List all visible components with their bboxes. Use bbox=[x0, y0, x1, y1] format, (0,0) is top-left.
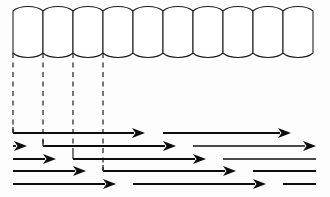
arrow-row-1-segment-2 bbox=[163, 128, 291, 138]
arrow-row-3 bbox=[13, 153, 316, 164]
arrow-row-1 bbox=[13, 127, 291, 138]
arrow-row-1-segment-1 bbox=[13, 127, 145, 138]
arrow-row-4-segment-2 bbox=[103, 165, 236, 176]
figure-canvas bbox=[0, 0, 330, 197]
figure-svg bbox=[0, 0, 330, 197]
cylinder-cell-8 bbox=[223, 7, 253, 58]
dashed-projection-lines bbox=[13, 53, 103, 170]
arrow-row-4 bbox=[13, 165, 316, 176]
arrow-row-5-segment-1 bbox=[13, 179, 116, 189]
cylinder-cell-9 bbox=[253, 7, 283, 58]
arrow-row-2-segment-3 bbox=[193, 141, 316, 151]
arrow-row-3-segment-1 bbox=[13, 154, 56, 164]
arrow-row-4-segment-1 bbox=[13, 166, 86, 176]
cylinder-cell-6 bbox=[163, 7, 193, 58]
arrow-row-5-segment-2 bbox=[133, 179, 266, 189]
cylinder-cell-4 bbox=[103, 7, 133, 58]
arrow-row-2-segment-2 bbox=[43, 140, 176, 151]
cylinder-cell-7 bbox=[193, 7, 223, 58]
arrow-row-3-segment-2 bbox=[73, 153, 206, 164]
cylinder-cell-2 bbox=[43, 7, 73, 58]
cylinder-cell-5 bbox=[133, 7, 163, 58]
displacement-arrow-rows bbox=[13, 127, 316, 189]
cylinder-cell-3 bbox=[73, 7, 103, 58]
arrow-row-2 bbox=[13, 140, 316, 151]
cylinder-cell-row bbox=[13, 7, 313, 58]
arrow-row-2-segment-1 bbox=[13, 141, 27, 151]
cylinder-cell-1 bbox=[13, 7, 43, 58]
cylinder-cell-10 bbox=[283, 7, 313, 58]
arrow-row-5 bbox=[13, 179, 316, 189]
